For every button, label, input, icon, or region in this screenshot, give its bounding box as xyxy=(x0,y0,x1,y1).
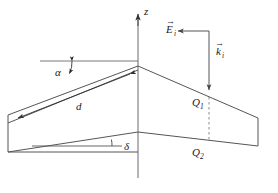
d-double-arrow-icon xyxy=(18,74,130,118)
d-dimension-line xyxy=(18,74,130,118)
double-arrow-arc-icon xyxy=(70,61,73,74)
Q2-subscript: 2 xyxy=(200,152,204,161)
Q1-label: Q 1 xyxy=(192,96,204,111)
Q1-symbol: Q xyxy=(192,96,200,108)
left-lower-region xyxy=(8,123,138,152)
k-vector-label: → k i xyxy=(215,38,224,60)
E-vector-symbol: E xyxy=(165,23,173,35)
delta-arc-icon xyxy=(111,140,112,147)
Q2-label: Q 2 xyxy=(192,146,204,161)
delta-label: δ xyxy=(124,140,130,152)
left-slab-top-edge xyxy=(8,66,138,115)
d-label: d xyxy=(76,100,82,112)
k-vector-subscript: i xyxy=(222,51,224,60)
E-vector-subscript: i xyxy=(174,29,176,38)
Q2-symbol: Q xyxy=(192,146,200,158)
left-lower-top-edge xyxy=(8,132,138,152)
right-wedge-bottom-edge xyxy=(138,132,258,146)
alpha-angle-arc xyxy=(70,61,73,74)
alpha-label: α xyxy=(55,66,61,78)
delta-angle-arc xyxy=(32,140,122,147)
E-vector-label: → E i xyxy=(165,16,176,38)
figure-container: z α δ d → E i → k i Q 1 Q 2 xyxy=(0,0,278,193)
right-wedge-top-edge xyxy=(138,66,258,118)
z-axis-label: z xyxy=(143,5,149,17)
Q1-subscript: 1 xyxy=(200,102,204,111)
diagram-canvas: z α δ d → E i → k i Q 1 Q 2 xyxy=(0,0,278,193)
